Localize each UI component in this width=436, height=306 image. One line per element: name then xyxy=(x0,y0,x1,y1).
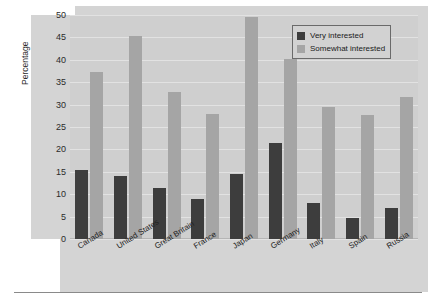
bar xyxy=(90,72,103,239)
y-axis-tick-label: 20 xyxy=(38,144,66,154)
bar-group xyxy=(225,15,264,239)
bar xyxy=(206,114,219,239)
bar xyxy=(129,36,142,239)
y-axis-tick-label: 45 xyxy=(38,32,66,42)
bar xyxy=(284,59,297,239)
x-axis-label-cell: Italy xyxy=(302,239,341,289)
x-axis-label-cell: Great Britain xyxy=(147,239,186,289)
legend-swatch xyxy=(297,32,305,40)
bar xyxy=(400,97,413,239)
x-axis-label-cell: Russia xyxy=(379,239,418,289)
legend-entry: Very interested xyxy=(297,29,385,42)
bar xyxy=(307,203,320,239)
bar xyxy=(114,176,127,239)
legend-label: Somewhat interested xyxy=(310,44,385,53)
x-axis-label-cell: Germany xyxy=(263,239,302,289)
bar xyxy=(361,115,374,239)
bar-group xyxy=(109,15,148,239)
bar-group xyxy=(70,15,109,239)
legend-swatch xyxy=(297,45,305,53)
y-axis-tick-label: 10 xyxy=(38,189,66,199)
y-axis-ticks: 50454035302520151050 xyxy=(36,15,66,239)
y-axis-label: Percentage xyxy=(20,42,30,85)
y-axis-tick-label: 40 xyxy=(38,55,66,65)
x-axis-label-cell: Japan xyxy=(225,239,264,289)
x-axis-label-cell: United States xyxy=(109,239,148,289)
y-axis-tick-label: 50 xyxy=(38,10,66,20)
bar xyxy=(269,143,282,239)
y-axis-tick-label: 35 xyxy=(38,77,66,87)
bar-chart: Percentage 50454035302520151050 CanadaUn… xyxy=(0,0,436,306)
corner-notch-bottom xyxy=(31,239,60,292)
bar xyxy=(191,199,204,239)
y-axis-tick-label: 25 xyxy=(38,122,66,132)
y-axis-tick-label: 0 xyxy=(38,234,66,244)
bar xyxy=(153,188,166,239)
x-axis-label-cell: Canada xyxy=(70,239,109,289)
bar-group xyxy=(147,15,186,239)
y-axis-tick-label: 30 xyxy=(38,100,66,110)
x-axis-labels: CanadaUnited StatesGreat BritainFranceJa… xyxy=(70,239,418,289)
bar xyxy=(168,92,181,239)
bar xyxy=(385,208,398,239)
bar xyxy=(230,174,243,239)
bar xyxy=(75,170,88,239)
bar xyxy=(245,17,258,239)
bar-group xyxy=(186,15,225,239)
x-axis-label-cell: France xyxy=(186,239,225,289)
x-axis-label-cell: Spain xyxy=(341,239,380,289)
bar xyxy=(322,107,335,239)
legend-entry: Somewhat interested xyxy=(297,42,385,55)
legend-label: Very interested xyxy=(310,31,363,40)
chart-legend: Very interestedSomewhat interested xyxy=(292,25,391,59)
y-axis-tick-label: 5 xyxy=(38,212,66,222)
bottom-divider xyxy=(14,292,422,293)
y-axis-tick-label: 15 xyxy=(38,167,66,177)
